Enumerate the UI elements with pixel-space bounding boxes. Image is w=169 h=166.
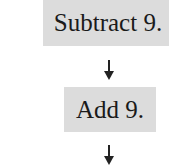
step-label: Add 9. — [76, 96, 144, 124]
step-box-add: Add 9. — [64, 87, 156, 132]
arrow-down-icon — [104, 145, 114, 165]
step-box-subtract: Subtract 9. — [43, 0, 169, 46]
arrow-down-icon — [104, 60, 114, 80]
step-label: Subtract 9. — [54, 9, 162, 37]
